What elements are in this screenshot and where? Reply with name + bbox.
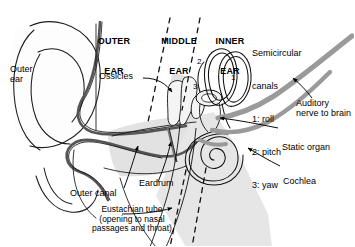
section-header-middle-line2: EAR <box>150 66 208 76</box>
section-header-inner-line1: INNER <box>206 36 254 46</box>
label-outer-canal: Outer canal <box>70 188 117 198</box>
pinna-lobe-inner <box>44 168 72 204</box>
legend-title-line2: canals <box>252 81 302 92</box>
ear-diagram: OUTER EAR MIDDLE EAR INNER EAR Outer ear… <box>0 0 355 247</box>
canal-number-1: 1 <box>231 74 235 83</box>
label-ossicles: Ossicles <box>99 71 133 81</box>
canal-number-3: 3 <box>193 83 197 92</box>
semicircular-canals-legend: Semicircular canals 1: roll 2: pitch 3: … <box>252 26 302 212</box>
label-outer-ear: Outer ear <box>10 64 33 84</box>
section-header-middle-line1: MIDDLE <box>150 36 208 46</box>
section-header-inner-line2: EAR <box>206 66 254 76</box>
label-eardrum: Eardrum <box>139 178 174 188</box>
legend-item-pitch: 2: pitch <box>252 147 302 158</box>
section-header-outer: OUTER EAR <box>80 16 148 97</box>
label-eustachian-tube: Eustachian tube (opening to nasal passag… <box>92 205 172 234</box>
canal-number-2: 2 <box>197 58 201 67</box>
legend-item-yaw: 3: yaw <box>252 180 302 191</box>
legend-item-roll: 1: roll <box>252 114 302 125</box>
section-header-inner: INNER EAR <box>206 16 254 97</box>
legend-title-line1: Semicircular <box>252 48 302 59</box>
label-auditory-nerve: Auditory nerve to brain <box>296 98 351 118</box>
section-header-outer-line1: OUTER <box>80 36 148 46</box>
